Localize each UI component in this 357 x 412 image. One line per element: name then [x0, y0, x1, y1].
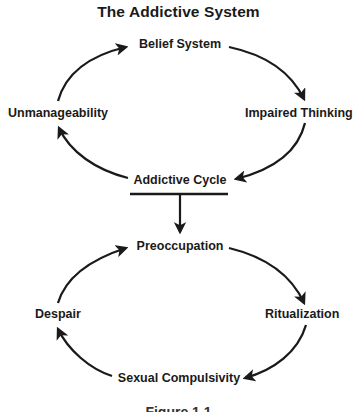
arrow-compulsivity-to-despair [58, 329, 112, 376]
arrow-unmanageability-to-belief [58, 47, 126, 101]
arrow-belief-to-impaired [229, 47, 304, 99]
arrow-ritualization-to-compulsivity [245, 325, 306, 378]
cycle-arrows [0, 0, 357, 412]
arrow-addictive-to-unmanageability [59, 128, 128, 178]
arrow-impaired-to-addictive [236, 123, 305, 179]
addictive-system-diagram: The Addictive System Belief System Unman… [0, 0, 357, 412]
figure-caption: Figure 1.1 [0, 403, 357, 412]
arrow-despair-to-preoccupation [58, 248, 126, 303]
arrow-preoccupation-to-ritualization [229, 248, 304, 303]
